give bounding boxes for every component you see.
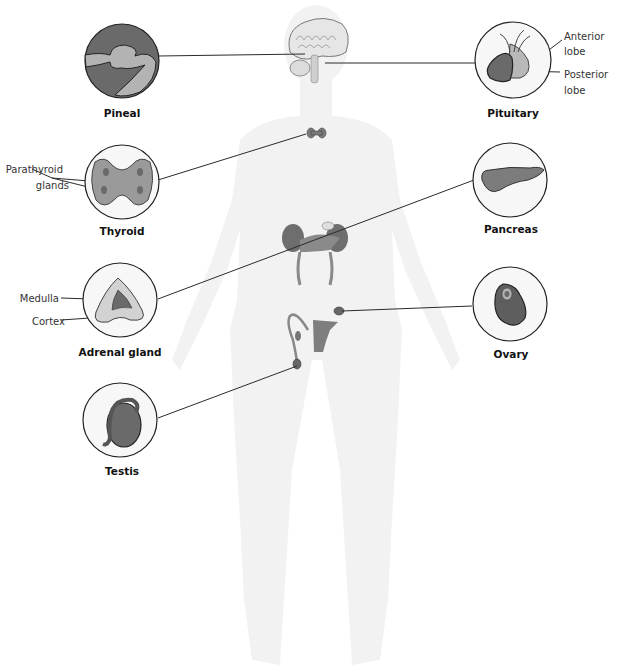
label-parathyroid: Parathyroid bbox=[6, 163, 63, 176]
label-thyroid: Thyroid bbox=[100, 225, 145, 237]
label-anterior: Anterior bbox=[564, 30, 604, 43]
label-cortex: Cortex bbox=[32, 315, 65, 328]
endocrine-system-diagram: Pineal Pituitary Thyroid Pancreas Adrena… bbox=[0, 0, 617, 671]
label-pineal: Pineal bbox=[104, 107, 141, 119]
label-posterior: Posterior bbox=[564, 68, 608, 81]
pituitary-circle bbox=[475, 22, 551, 98]
testis-circle bbox=[83, 383, 157, 457]
thyroid-circle bbox=[85, 145, 159, 219]
label-parathyroid-glands: glands bbox=[36, 179, 69, 192]
diagram-canvas bbox=[0, 0, 617, 671]
ovary-circle bbox=[473, 267, 547, 341]
label-adrenal-gland: Adrenal gland bbox=[79, 346, 162, 358]
adrenal-circle bbox=[83, 263, 157, 337]
pineal-circle bbox=[85, 24, 159, 98]
label-pancreas: Pancreas bbox=[484, 223, 538, 235]
pancreas-circle bbox=[473, 143, 547, 217]
label-testis: Testis bbox=[105, 465, 139, 477]
label-ovary: Ovary bbox=[494, 348, 529, 360]
label-anterior-lobe: lobe bbox=[564, 45, 585, 58]
label-pituitary: Pituitary bbox=[487, 107, 539, 119]
label-posterior-lobe: lobe bbox=[564, 84, 585, 97]
label-medulla: Medulla bbox=[20, 292, 59, 305]
